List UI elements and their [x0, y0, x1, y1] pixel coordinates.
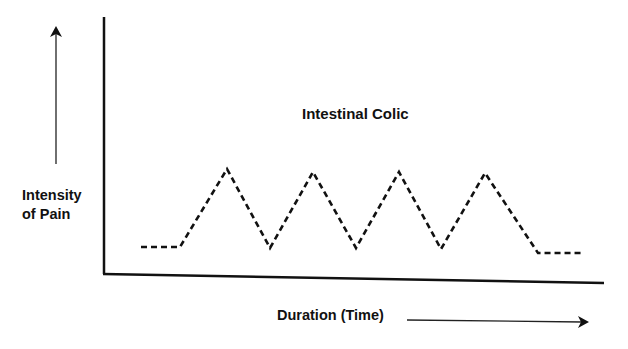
y-axis-label-line2: of Pain: [22, 205, 82, 224]
colic-chart: [0, 0, 628, 349]
pain-intensity-line: [141, 169, 581, 253]
x-axis-label: Duration (Time): [277, 307, 384, 323]
x-direction-arrow: [407, 316, 589, 328]
y-axis-label: Intensity of Pain: [22, 186, 82, 224]
y-axis-label-line1: Intensity: [22, 186, 82, 205]
chart-title: Intestinal Colic: [302, 105, 409, 122]
x-axis: [103, 274, 604, 283]
y-direction-arrow: [50, 26, 62, 164]
